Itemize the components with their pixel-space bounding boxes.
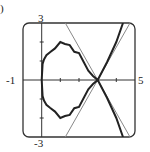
plot-area: [0, 0, 150, 152]
